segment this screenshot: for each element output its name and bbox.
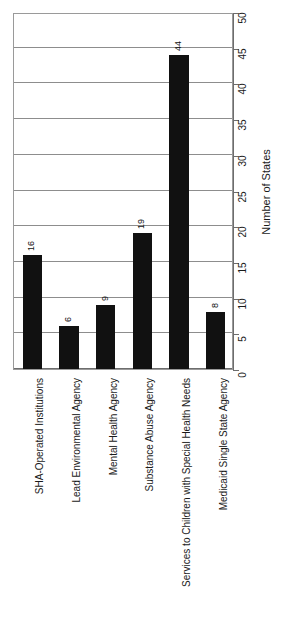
- bar: [169, 55, 188, 369]
- axis-tick-label: 30: [238, 155, 248, 166]
- plot-area: 166919448: [13, 13, 233, 370]
- bar-value-label: 6: [64, 317, 73, 322]
- bar: [133, 233, 152, 369]
- gridline: [14, 190, 232, 191]
- category-label: Mental Health Agency: [109, 378, 119, 475]
- value-axis-title: Number of States: [258, 13, 274, 370]
- bar: [96, 305, 115, 369]
- bar-value-label: 19: [137, 219, 146, 229]
- axis-tick-label: 40: [238, 84, 248, 95]
- bar: [59, 326, 78, 369]
- axis-tick-label: 10: [238, 298, 248, 309]
- gridline: [14, 332, 232, 333]
- gridline: [14, 82, 232, 83]
- axis-tick-label: 0: [238, 372, 248, 378]
- bar: [206, 312, 225, 369]
- category-axis-labels: SHA-Operated InstitutionsLead Environmen…: [13, 374, 233, 624]
- axis-tick-label: 5: [238, 337, 248, 343]
- category-label: Services to Children with Special Health…: [182, 378, 192, 587]
- axis-tick-label: 45: [238, 48, 248, 59]
- axis-tick-label: 15: [238, 262, 248, 273]
- value-axis-title-text: Number of States: [260, 149, 272, 235]
- gridline: [14, 261, 232, 262]
- axis-tick-label: 25: [238, 191, 248, 202]
- bar-value-label: 44: [174, 41, 183, 51]
- bar-value-label: 8: [211, 303, 220, 308]
- bar: [23, 255, 42, 369]
- category-label: Substance Abuse Agency: [145, 378, 155, 491]
- gridline: [14, 118, 232, 119]
- bar-value-label: 16: [27, 241, 36, 251]
- axis-tick-label: 35: [238, 120, 248, 131]
- gridline: [14, 154, 232, 155]
- category-label: Medicaid Single State Agency: [219, 378, 229, 510]
- gridline: [14, 297, 232, 298]
- axis-tick-label: 50: [238, 12, 248, 23]
- gridline: [14, 47, 232, 48]
- bar-chart: 166919448 05101520253035404550 Number of…: [0, 0, 282, 627]
- gridline: [14, 368, 232, 369]
- axis-tick-label: 20: [238, 227, 248, 238]
- category-label: Lead Environmental Agency: [72, 378, 82, 503]
- gridline: [14, 225, 232, 226]
- bar-value-label: 9: [101, 296, 110, 301]
- category-label: SHA-Operated Institutions: [35, 378, 45, 494]
